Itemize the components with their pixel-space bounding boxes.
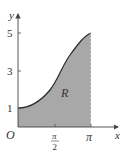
y-tick-label-1: 1 (7, 102, 13, 114)
x-tick-label-pi-half-den: 2 (53, 142, 58, 152)
x-tick-label-pi: π (86, 130, 93, 144)
region-label: R (60, 86, 69, 100)
y-tick-label-3: 3 (7, 65, 13, 77)
x-tick-label-pi-half-num: π (52, 131, 57, 141)
region-r-fill (18, 33, 91, 127)
x-axis-label: x (114, 129, 120, 141)
origin-label: O (6, 128, 15, 142)
diagram-canvas: y x O 5 3 1 π 2 π R (0, 0, 130, 159)
y-tick-label-5: 5 (7, 27, 13, 39)
y-axis-label: y (8, 9, 14, 21)
